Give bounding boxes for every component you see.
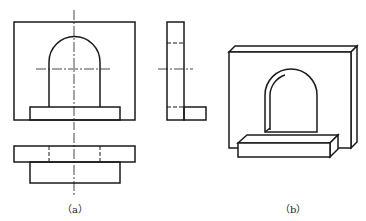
side-view [158,22,206,120]
label-b: （b） [280,201,306,216]
label-a: （a） [62,201,88,216]
isometric-view [229,46,357,157]
front-view [14,10,135,130]
top-view [14,133,135,195]
drawing-canvas [0,0,366,221]
